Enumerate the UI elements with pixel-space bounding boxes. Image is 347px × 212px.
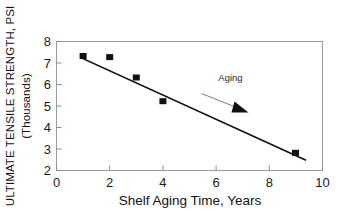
y-tick-label-6: 6 (44, 77, 51, 92)
x-tick-label-0: 0 (53, 175, 60, 190)
x-tick-label-4: 4 (159, 175, 166, 190)
data-point-marker (106, 54, 113, 60)
data-point-marker (292, 150, 299, 156)
y-tick-labels: 8 7 6 5 4 3 2 (44, 34, 51, 178)
y-tick-label-8: 8 (44, 34, 51, 49)
y-tick-label-3: 3 (44, 142, 51, 157)
y-tick-label-4: 4 (44, 120, 51, 135)
y-tickmarks (57, 42, 62, 171)
aging-annotation: Aging (202, 72, 249, 113)
x-tick-labels: 0 2 4 6 8 10 (53, 175, 330, 190)
x-axis-title: Shelf Aging Time, Years (119, 193, 262, 208)
data-point-marker (133, 75, 140, 81)
x-tick-label-6: 6 (212, 175, 219, 190)
y-axis-title-units: (Thousands) (20, 73, 32, 139)
trendline (83, 59, 305, 160)
chart-container: 8 7 6 5 4 3 2 0 2 4 6 8 10 Shelf Aging T… (0, 0, 347, 212)
x-tick-label-10: 10 (315, 175, 329, 190)
y-tick-label-5: 5 (44, 99, 51, 114)
x-tick-label-2: 2 (106, 175, 113, 190)
data-series-markers (80, 53, 299, 156)
aging-arrow-head-icon (232, 102, 249, 113)
data-point-marker (80, 53, 87, 59)
aging-annotation-label: Aging (218, 72, 242, 83)
aging-arrow-shaft (202, 94, 239, 109)
x-tickmarks (57, 166, 323, 171)
y-tick-label-7: 7 (44, 56, 51, 71)
y-tick-label-2: 2 (44, 163, 51, 178)
y-axis-title-primary: ULTIMATE TENSILE STRENGTH, PSI (4, 6, 16, 206)
plot-frame (57, 42, 323, 171)
data-point-marker (159, 98, 166, 104)
tensile-strength-scatter-chart: 8 7 6 5 4 3 2 0 2 4 6 8 10 Shelf Aging T… (0, 0, 347, 212)
x-tick-label-8: 8 (266, 175, 273, 190)
